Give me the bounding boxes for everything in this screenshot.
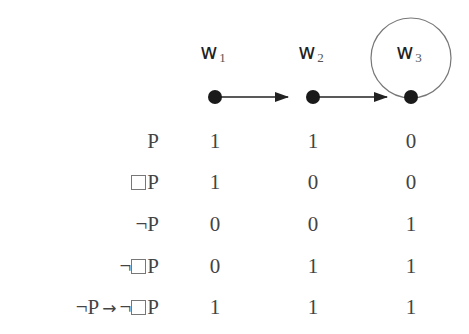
node-w3 bbox=[404, 90, 418, 104]
truth-value-w1: 0 bbox=[200, 209, 230, 239]
world-label-w3: w3 bbox=[396, 40, 422, 66]
truth-value-w3: 1 bbox=[396, 292, 426, 322]
truth-value-w2: 1 bbox=[298, 126, 328, 156]
box-necessity-icon bbox=[131, 300, 146, 315]
negation-symbol: ¬ bbox=[135, 212, 147, 236]
box-necessity-icon bbox=[131, 259, 146, 274]
truth-value-w3: 0 bbox=[396, 167, 426, 197]
table-row: ¬P 0 1 1 bbox=[0, 251, 469, 281]
table-row: ¬P→¬P 1 1 1 bbox=[0, 292, 469, 322]
world-letter: w bbox=[298, 40, 315, 64]
truth-value-w1: 1 bbox=[200, 167, 230, 197]
table-row: P 1 1 0 bbox=[0, 126, 469, 156]
truth-value-w3: 0 bbox=[396, 126, 426, 156]
atom-p: P bbox=[147, 129, 159, 153]
node-w2 bbox=[306, 90, 320, 104]
negation-symbol: ¬ bbox=[119, 254, 131, 278]
implication-arrow-icon: → bbox=[102, 298, 116, 318]
table-row: P 1 0 0 bbox=[0, 167, 469, 197]
box-necessity-icon bbox=[131, 175, 146, 190]
atom-p: P bbox=[147, 170, 159, 194]
world-index: 3 bbox=[415, 50, 422, 65]
world-label-w2: w2 bbox=[298, 40, 324, 66]
atom-p: P bbox=[88, 295, 100, 319]
formula-label: ¬P→¬P bbox=[76, 292, 159, 323]
world-letter: w bbox=[396, 40, 413, 64]
world-index: 1 bbox=[219, 50, 226, 65]
truth-value-w2: 0 bbox=[298, 209, 328, 239]
world-index: 2 bbox=[317, 50, 324, 65]
atom-p: P bbox=[147, 254, 159, 278]
formula-label: P bbox=[147, 126, 159, 156]
world-label-w1: w1 bbox=[200, 40, 226, 66]
world-letter: w bbox=[200, 40, 217, 64]
negation-symbol: ¬ bbox=[119, 295, 131, 319]
negation-symbol: ¬ bbox=[76, 295, 88, 319]
truth-value-w1: 0 bbox=[200, 251, 230, 281]
atom-p: P bbox=[147, 295, 159, 319]
formula-label: P bbox=[131, 167, 159, 197]
atom-p: P bbox=[147, 212, 159, 236]
kripke-diagram: w1 w2 w3 P 1 1 0 P 1 0 0 ¬P 0 0 1 ¬P 0 1… bbox=[0, 0, 469, 334]
truth-value-w3: 1 bbox=[396, 209, 426, 239]
truth-value-w1: 1 bbox=[200, 126, 230, 156]
node-w1 bbox=[208, 90, 222, 104]
truth-value-w2: 1 bbox=[298, 292, 328, 322]
truth-value-w2: 0 bbox=[298, 167, 328, 197]
truth-value-w3: 1 bbox=[396, 251, 426, 281]
formula-label: ¬P bbox=[119, 251, 159, 281]
formula-label: ¬P bbox=[135, 209, 159, 239]
truth-value-w1: 1 bbox=[200, 292, 230, 322]
truth-value-w2: 1 bbox=[298, 251, 328, 281]
table-row: ¬P 0 0 1 bbox=[0, 209, 469, 239]
